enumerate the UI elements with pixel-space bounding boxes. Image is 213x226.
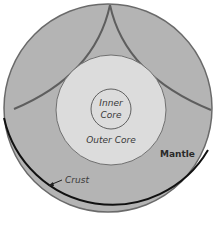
crust-label: Crust (65, 175, 89, 185)
earth-layers-diagram: Inner Core Outer Core Mantle Crust (0, 0, 213, 226)
inner-core-label-line2: Core (100, 110, 121, 120)
outer-core-label: Outer Core (86, 135, 136, 145)
inner-core-region (91, 89, 131, 129)
inner-core-label-line1: Inner (99, 98, 124, 108)
mantle-label: Mantle (160, 149, 195, 159)
